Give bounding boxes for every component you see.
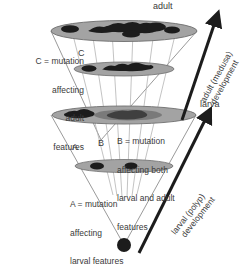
legend-c-line4: features: [6, 143, 84, 153]
legend-c-line2: affecting: [6, 86, 84, 96]
legend-b-line2: affecting both: [117, 166, 203, 176]
marker-b: B: [98, 138, 104, 148]
legend-c-line3: adult: [6, 114, 84, 124]
label-adult: adult: [153, 1, 173, 11]
adult-mid-disc: [74, 62, 174, 76]
legend-b-line1: B = mutation: [117, 137, 203, 147]
legend-a-line1: A = mutation: [70, 200, 160, 210]
legend-a-line2: affecting: [70, 229, 160, 239]
legend-a-line3: larval features: [70, 257, 160, 267]
legend-c-line1: C = mutation: [6, 57, 84, 67]
legend-a: A = mutation affecting larval features: [70, 181, 160, 268]
legend-c: C = mutation affecting adult features: [6, 38, 84, 171]
